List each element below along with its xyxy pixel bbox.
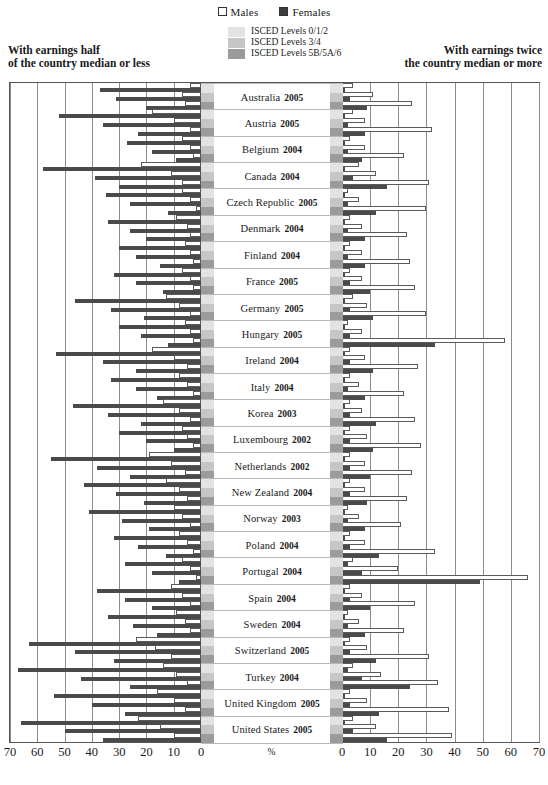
isced-swatch-cell	[330, 216, 343, 225]
axis-unit-label: %	[268, 747, 276, 757]
isced-swatch-strip-left	[201, 321, 214, 347]
legend-item-males: Males	[218, 6, 259, 18]
isced-swatch-strip-left	[201, 638, 214, 664]
isced-swatch-cell	[330, 374, 343, 383]
isced-swatch-strip-left	[201, 611, 214, 637]
country-label: France2005	[246, 276, 298, 287]
isced-swatch-cell	[330, 356, 343, 365]
isced-swatch-cell	[330, 515, 343, 524]
axis-tick-left-40: 40	[86, 745, 99, 760]
country-year: 2004	[279, 541, 298, 551]
country-label: Finland2004	[244, 250, 300, 261]
isced-swatch-cell	[330, 321, 343, 330]
isced-swatch-cell	[330, 277, 343, 286]
country-year: 2005	[301, 699, 320, 709]
country-name: France	[246, 276, 275, 287]
country-year: 2005	[284, 93, 303, 103]
country-name: Netherlands	[235, 461, 287, 472]
isced-swatch-strip-left	[201, 84, 214, 110]
country-name: Italy	[251, 382, 271, 393]
isced-swatch-cell	[330, 225, 343, 234]
legend-isced-label-0: ISCED Levels 0/1/2	[251, 26, 328, 37]
axis-tick-left-30: 30	[113, 745, 126, 760]
isced-swatch-strip-right	[330, 453, 343, 479]
country-year: 2004	[284, 224, 303, 234]
isced-swatch-cell	[201, 646, 214, 655]
isced-swatch-cell	[201, 374, 214, 383]
isced-swatch-cell	[330, 532, 343, 541]
country-block: New Zealand2004	[10, 478, 539, 504]
isced-swatch-strip-left	[201, 110, 214, 136]
axis-tick-left-0: 0	[198, 745, 204, 760]
isced-swatch-strip-left	[201, 585, 214, 611]
isced-swatch-cell	[330, 119, 343, 128]
isced-swatch-strip-left	[201, 717, 214, 743]
isced-swatch-strip-left	[201, 453, 214, 479]
country-label-band: Finland2004	[201, 241, 343, 269]
country-year: 2004	[293, 488, 312, 498]
country-label: Spain2004	[248, 593, 295, 604]
isced-swatch-cell	[201, 690, 214, 699]
country-name: Sweden	[244, 619, 278, 630]
country-label: United Kingdom2005	[224, 698, 319, 709]
isced-swatch-strip-right	[330, 585, 343, 611]
isced-swatch-cell	[330, 427, 343, 436]
isced-swatch-cell	[330, 453, 343, 462]
country-name: Hungary	[242, 329, 279, 340]
country-label: Italy2004	[251, 382, 294, 393]
country-label-band: Korea2003	[201, 399, 343, 427]
isced-swatch-cell	[330, 462, 343, 471]
isced-swatch-icon-1	[228, 38, 245, 48]
country-label: Turkey2004	[245, 672, 299, 683]
isced-swatch-strip-right	[330, 110, 343, 136]
country-name: United States	[232, 724, 290, 735]
country-label: Belgium2004	[242, 144, 302, 155]
isced-swatch-strip-left	[201, 532, 214, 558]
isced-swatch-cell	[330, 611, 343, 620]
legend-label-females: Females	[292, 6, 330, 18]
country-year: 2004	[283, 567, 302, 577]
country-label: United States2005	[232, 724, 313, 735]
country-label-band: Germany2005	[201, 294, 343, 322]
isced-swatch-cell	[201, 172, 214, 181]
country-year: 2005	[283, 330, 302, 340]
country-block: Spain2004	[10, 584, 539, 610]
country-year: 2005	[279, 277, 298, 287]
isced-swatch-strip-right	[330, 479, 343, 505]
isced-swatch-strip-left	[201, 295, 214, 321]
isced-swatch-cell	[330, 172, 343, 181]
isced-swatch-cell	[201, 216, 214, 225]
country-block: Netherlands2002	[10, 452, 539, 478]
country-year: 2003	[282, 514, 301, 524]
isced-swatch-strip-right	[330, 374, 343, 400]
country-name: Poland	[246, 540, 276, 551]
axis-tick-right-0: 0	[339, 745, 345, 760]
isced-swatch-strip-left	[201, 690, 214, 716]
country-label-band: Belgium2004	[201, 136, 343, 164]
country-year: 2004	[281, 251, 300, 261]
country-block: Australia2005	[10, 83, 539, 109]
country-label-band: Norway2003	[201, 505, 343, 533]
country-block: Canada2004	[10, 162, 539, 188]
country-label: Denmark2004	[241, 223, 304, 234]
isced-swatch-cell	[201, 453, 214, 462]
isced-swatch-cell	[201, 348, 214, 357]
isced-swatch-strip-right	[330, 216, 343, 242]
isced-swatch-cell	[201, 699, 214, 708]
isced-swatch-strip-left	[201, 189, 214, 215]
country-year: 2004	[283, 145, 302, 155]
country-label-band: Ireland2004	[201, 347, 343, 375]
isced-swatch-cell	[201, 330, 214, 339]
isced-swatch-cell	[330, 348, 343, 357]
country-label: Luxembourg2002	[233, 434, 311, 445]
isced-swatch-cell	[201, 515, 214, 524]
isced-swatch-cell	[201, 269, 214, 278]
isced-swatch-cell	[201, 567, 214, 576]
isced-swatch-strip-left	[201, 269, 214, 295]
axis-tick-left-20: 20	[140, 745, 153, 760]
country-block: Finland2004	[10, 241, 539, 267]
country-label: Australia2005	[241, 92, 303, 103]
isced-swatch-cell	[330, 269, 343, 278]
isced-swatch-strip-right	[330, 163, 343, 189]
isced-swatch-cell	[330, 110, 343, 119]
